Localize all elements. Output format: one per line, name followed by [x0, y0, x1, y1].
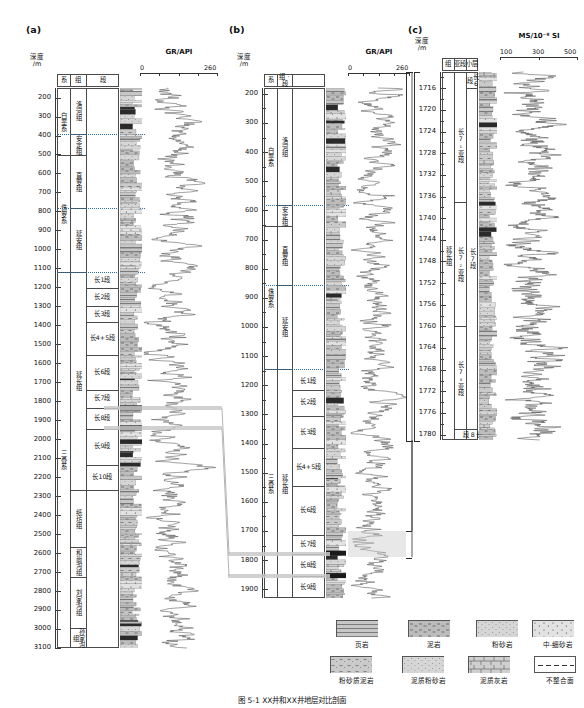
stratigraphic-correlation-figure: (a) (b) (c) 页岩 — [0, 0, 584, 708]
zoom-connectors — [0, 0, 584, 708]
panel-c-depth-bracket — [414, 72, 420, 442]
